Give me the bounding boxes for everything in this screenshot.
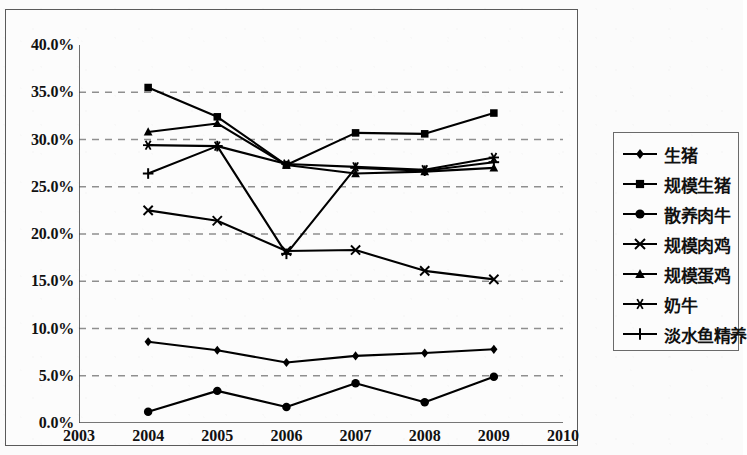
x-axis-tick-label: 2006: [256, 428, 316, 444]
chart-legend: 生猪规模生猪散养肉牛规模肉鸡规模蛋鸡奶牛淡水鱼精养: [613, 132, 739, 351]
legend-item-label: 规模蛋鸡: [664, 262, 730, 287]
legend-item-3[interactable]: 散养肉牛: [614, 199, 738, 229]
chart-frame: 0.0%5.0%10.0%15.0%20.0%25.0%30.0%35.0%40…: [5, 9, 578, 446]
legend-item-1[interactable]: 生猪: [614, 139, 738, 169]
x-axis-tick-label: 2004: [118, 428, 178, 444]
square-marker-icon: [621, 174, 659, 194]
legend-item-5[interactable]: 规模蛋鸡: [614, 259, 738, 289]
x-axis-tick-label: 2009: [464, 428, 524, 444]
legend-item-2[interactable]: 规模生猪: [614, 169, 738, 199]
y-axis-tick-label: 5.0%: [12, 368, 74, 384]
legend-item-7[interactable]: 淡水鱼精养: [614, 319, 738, 349]
cross-x-marker-icon: [621, 234, 659, 254]
y-axis-tick-label: 35.0%: [12, 84, 74, 100]
axes: [79, 45, 563, 423]
x-axis-tick-label: 2005: [187, 428, 247, 444]
y-axis-tick-labels: 0.0%5.0%10.0%15.0%20.0%25.0%30.0%35.0%40…: [10, 10, 74, 447]
circle-marker-icon: [621, 204, 659, 224]
asterisk-marker-icon: [621, 294, 659, 314]
triangle-marker-icon: [621, 264, 659, 284]
y-axis-tick-label: 25.0%: [12, 179, 74, 195]
legend-item-label: 散养肉牛: [664, 202, 730, 227]
x-axis-tick-label: 2007: [326, 428, 386, 444]
y-axis-tick-label: 10.0%: [12, 321, 74, 337]
legend-item-label: 规模生猪: [664, 172, 730, 197]
y-axis-tick-label: 30.0%: [12, 132, 74, 148]
y-axis-tick-label: 15.0%: [12, 273, 74, 289]
legend-item-label: 淡水鱼精养: [664, 322, 747, 347]
data-series: [144, 372, 498, 415]
legend-item-4[interactable]: 规模肉鸡: [614, 229, 738, 259]
y-axis-tick-label: 20.0%: [12, 226, 74, 242]
plot-area: [79, 45, 563, 423]
x-axis-tick-labels: 20032004200520062007200820092010: [79, 428, 563, 450]
diamond-marker-icon: [621, 144, 659, 164]
data-series: [145, 337, 498, 367]
legend-item-label: 规模肉鸡: [664, 232, 730, 257]
legend-item-6[interactable]: 奶牛: [614, 289, 738, 319]
x-axis-tick-label: 2010: [533, 428, 593, 444]
x-axis-tick-label: 2008: [395, 428, 455, 444]
legend-item-label: 奶牛: [664, 292, 697, 317]
line-chart-svg: [79, 45, 563, 423]
plus-marker-icon: [621, 324, 659, 344]
legend-item-label: 生猪: [664, 142, 697, 167]
data-series-layer: [143, 84, 499, 416]
y-axis-tick-label: 40.0%: [12, 37, 74, 53]
data-series: [143, 141, 499, 259]
data-series: [144, 206, 499, 284]
x-axis-tick-label: 2003: [49, 428, 109, 444]
